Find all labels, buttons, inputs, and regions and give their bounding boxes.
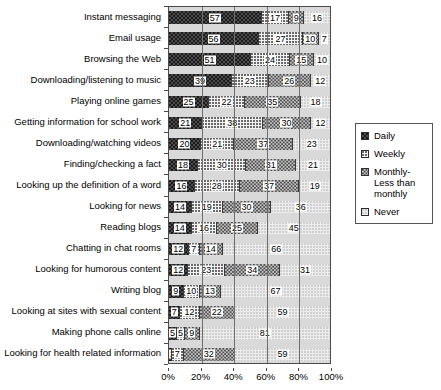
bar-segment: 31: [280, 264, 330, 277]
bar-value-label: 24: [251, 55, 289, 64]
bar-value-label: 10: [303, 34, 318, 43]
bar-segment: 25: [169, 96, 209, 109]
bar-segment: 28: [195, 180, 240, 193]
bar-segment: 14: [200, 243, 223, 256]
bar-segment: 21: [169, 117, 202, 130]
legend-item[interactable]: Daily: [361, 130, 427, 141]
value-tick-label: 20%: [191, 371, 210, 382]
bar-value-label: 28: [195, 182, 239, 191]
bar-segment: 37: [240, 180, 300, 193]
value-tick-label: 100%: [319, 371, 343, 382]
category-label: Playing online games: [71, 96, 161, 106]
bar-segment: 12: [311, 74, 330, 87]
table-row: 7122259: [169, 306, 330, 319]
category-label: Writing blog: [111, 285, 161, 295]
category-label: Getting information for school work: [14, 117, 161, 127]
legend-label: Daily: [374, 130, 395, 141]
bar-value-label: 30: [198, 160, 245, 169]
bar-value-label: 7: [172, 350, 182, 359]
bar-value-label: 21: [201, 139, 233, 148]
legend-item[interactable]: Never: [361, 206, 427, 217]
bar-segment: 17: [262, 11, 290, 24]
category-label: Looking for news: [89, 201, 161, 211]
bar-value-label: 2: [169, 350, 171, 359]
bar-value-label: 12: [180, 308, 198, 317]
bar-segment: 7: [172, 348, 183, 361]
bar-value-label: 23: [293, 139, 330, 148]
bar-segment: 22: [200, 306, 235, 319]
chart-legend: DailyWeeklyMonthly-Less thanmonthlyNever: [355, 123, 433, 224]
bar-value-label: 51: [169, 55, 250, 64]
bar-segment: 59: [235, 306, 330, 319]
bar-segment: 10: [314, 53, 330, 66]
bar-value-label: 56: [169, 34, 258, 43]
bar-value-label: 37: [240, 182, 299, 191]
table-row: 51241510: [169, 53, 330, 66]
bar-segment: 32: [184, 348, 236, 361]
bar-value-label: 57: [169, 13, 261, 22]
legend-item[interactable]: Weekly: [361, 148, 427, 159]
bar-segment: 22: [209, 96, 244, 109]
bar-value-label: 10: [184, 287, 199, 296]
bar-value-label: 26: [269, 76, 310, 85]
bar-value-label: 22: [209, 97, 243, 106]
table-row: 25223518: [169, 96, 330, 109]
category-label: Browsing the Web: [84, 54, 161, 64]
bar-segment: 19: [192, 201, 223, 214]
bar-segment: 30: [198, 159, 246, 172]
bar-segment: 7: [169, 306, 180, 319]
bar-segment: 20: [169, 138, 201, 151]
bar-rows: 5717916562710751241510392326122522351821…: [169, 7, 330, 363]
bar-segment: 14: [169, 201, 192, 214]
bar-segment: 18: [169, 159, 198, 172]
bar-value-label: 30: [223, 203, 271, 212]
bar-segment: 24: [251, 53, 290, 66]
bar-value-label: 19: [192, 203, 222, 212]
table-row: 20213723: [169, 138, 330, 151]
bar-segment: 21: [201, 138, 234, 151]
bar-segment: 36: [271, 201, 330, 214]
legend-label: Never: [374, 206, 399, 217]
bar-value-label: 7: [169, 308, 179, 317]
bar-segment: 5: [169, 327, 177, 340]
category-label: Instant messaging: [84, 12, 161, 22]
bar-value-label: 22: [200, 308, 234, 317]
bar-value-label: 67: [221, 287, 330, 296]
bar-value-label: 25: [217, 224, 256, 233]
bar-value-label: 12: [169, 266, 187, 275]
category-label: Downloading/listening to music: [31, 75, 161, 85]
bar-value-label: 16: [304, 13, 330, 22]
bar-segment: 66: [223, 243, 330, 256]
bar-value-label: 21: [296, 160, 330, 169]
bar-value-label: 34: [225, 266, 279, 275]
bar-value-label: 36: [271, 203, 330, 212]
bar-segment: 13: [200, 285, 221, 298]
category-label: Making phone calls online: [52, 327, 161, 337]
bar-segment: 16: [192, 222, 218, 235]
legend-label: Weekly: [374, 148, 405, 159]
bar-segment: 26: [269, 74, 311, 87]
legend-swatch-icon: [361, 168, 369, 176]
bar-value-label: 30: [263, 118, 310, 127]
category-label: Chatting in chat rooms: [66, 243, 161, 253]
value-tick-label: 60%: [256, 371, 275, 382]
bar-value-label: 37: [234, 139, 292, 148]
bar-value-label: 5: [177, 329, 184, 338]
bar-value-label: 27: [259, 34, 301, 43]
category-label: Finding/checking a fact: [64, 159, 161, 169]
table-row: 39232612: [169, 74, 330, 87]
bar-segment: 7: [319, 32, 330, 45]
bar-segment: 23: [188, 264, 225, 277]
bar-segment: 10: [303, 32, 319, 45]
legend-item[interactable]: Monthly-Less thanmonthly: [361, 166, 427, 199]
bar-value-label: 59: [235, 308, 330, 317]
bar-value-label: 12: [311, 118, 330, 127]
stacked-bar-chart: Instant messagingEmail usageBrowsing the…: [0, 0, 441, 390]
bar-segment: 21: [296, 159, 330, 172]
bar-segment: 81: [200, 327, 330, 340]
table-row: 12233431: [169, 264, 330, 277]
category-label: Email usage: [109, 33, 161, 43]
value-axis-labels: 0%20%40%60%80%100%: [168, 368, 331, 384]
bar-segment: 67: [221, 285, 330, 298]
bar-segment: 12: [169, 243, 189, 256]
